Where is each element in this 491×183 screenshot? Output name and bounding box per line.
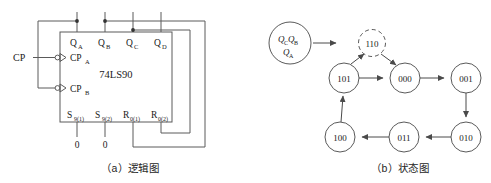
cp-a-label-sub: A <box>85 58 90 65</box>
pin-label-r02-sub: 0(2) <box>158 116 168 123</box>
state-nodes: 101 000 001 010 011 <box>325 63 481 152</box>
pin-label-s92-base: S <box>95 110 100 120</box>
transition-110-to-000 <box>381 54 396 65</box>
bottom-pin-stems <box>77 122 105 137</box>
output-label-qb-sub: B <box>106 43 111 50</box>
figure-svg: 74LS90 Q A Q B Q C Q D CP <box>0 0 491 183</box>
cp-input-label: CP <box>13 52 26 63</box>
state-node-101-label: 101 <box>337 74 351 84</box>
state-node-010-label: 010 <box>459 133 473 143</box>
chip-label: 74LS90 <box>99 69 132 80</box>
ground-label-s92: 0 <box>103 140 108 150</box>
pin-label-s92-sub: 9(2) <box>102 116 112 123</box>
cp-a-inversion-bubble-icon <box>55 55 60 60</box>
output-label-qc-sub: C <box>134 43 138 50</box>
cp-a-edge-trigger-icon <box>60 54 66 62</box>
figure-root: 74LS90 Q A Q B Q C Q D CP <box>0 0 491 183</box>
output-pin-stems <box>77 12 161 32</box>
junction-dot-qc <box>131 28 135 32</box>
state-node-101: 101 <box>329 63 359 93</box>
output-label-qa-sub: A <box>78 43 83 50</box>
pin-label-r01-sub: 0(1) <box>130 116 140 123</box>
state-node-010: 010 <box>451 122 481 152</box>
cp-b-label-sub: B <box>85 89 90 96</box>
pin-label-r02-base: R <box>151 110 158 120</box>
output-label-qd-sub: D <box>162 43 167 50</box>
cp-b-label-base: CP <box>70 84 82 94</box>
cp-b-edge-trigger-icon <box>60 84 66 92</box>
pin-label-r01-base: R <box>123 110 130 120</box>
cp-b-inversion-bubble-icon <box>55 86 60 91</box>
legend-qa-sub: A <box>289 53 294 59</box>
transition-101-to-110 <box>351 54 364 64</box>
state-legend-node: Q C Q B Q A <box>269 22 311 64</box>
state-node-110-label: 110 <box>365 39 379 49</box>
state-node-110-invalid: 110 <box>359 30 386 57</box>
state-node-100: 100 <box>325 122 355 152</box>
junction-dot-qa <box>75 19 79 23</box>
output-label-qa-base: Q <box>70 38 77 48</box>
cp-a-label-base: CP <box>70 53 82 63</box>
pin-label-s91-sub: 9(1) <box>74 116 84 123</box>
caption-panel-a: （a）逻辑图 <box>70 160 190 175</box>
output-label-qc-base: Q <box>126 38 133 48</box>
ground-label-s91: 0 <box>75 140 80 150</box>
pin-label-s91-base: S <box>67 110 72 120</box>
state-node-000: 000 <box>390 63 420 93</box>
output-label-qb-base: Q <box>98 38 105 48</box>
legend-qb-sub: B <box>294 40 298 46</box>
state-node-000-label: 000 <box>398 74 412 84</box>
state-node-100-label: 100 <box>333 133 347 143</box>
junction-dot-qb <box>103 19 107 23</box>
transition-100-to-101 <box>341 96 343 122</box>
state-node-001-label: 001 <box>459 74 473 84</box>
state-node-011: 011 <box>389 122 419 152</box>
caption-panel-b: （b）状态图 <box>340 160 460 175</box>
state-node-001: 001 <box>451 63 481 93</box>
state-node-011-label: 011 <box>397 133 410 143</box>
state-diagram-panel: Q C Q B Q A 110 101 <box>269 22 481 152</box>
output-labels: Q A Q B Q C Q D <box>70 38 167 50</box>
bottom-pin-labels: S 9(1) S 9(2) R 0(1) R 0(2) <box>67 110 168 123</box>
state-transitions <box>341 54 466 137</box>
logic-diagram-panel: 74LS90 Q A Q B Q C Q D CP <box>13 12 205 150</box>
output-label-qd-base: Q <box>154 38 161 48</box>
